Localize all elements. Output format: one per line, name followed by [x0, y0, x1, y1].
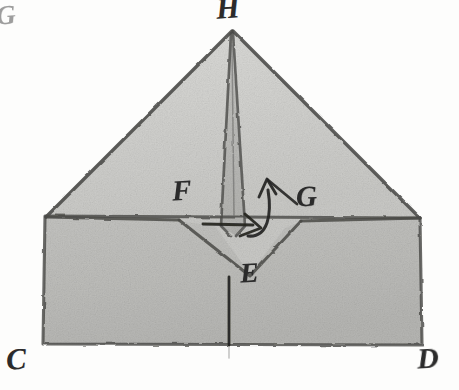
vertex-label-C: C	[5, 343, 27, 374]
vertex-label-G: G	[296, 182, 318, 212]
fold-direction-arrow-shaft	[203, 224, 253, 225]
folding-diagram-figure: H G F G E C D	[0, 0, 459, 390]
vertex-label-D: D	[416, 342, 439, 373]
vertex-label-F: F	[171, 176, 192, 206]
vertex-label-E: E	[239, 259, 259, 288]
vertex-label-G-partial: G	[0, 1, 17, 30]
vertex-label-H: H	[215, 0, 240, 24]
diagram-canvas	[0, 0, 459, 390]
